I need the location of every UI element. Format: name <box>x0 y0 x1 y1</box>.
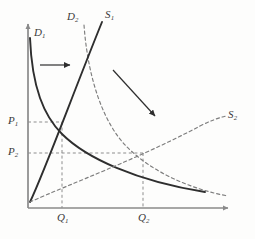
demand-curve-d1-label: D1 <box>34 27 45 38</box>
supply-demand-diagram: D1 D2 S1 S2 P1 P2 Q1 Q2 <box>0 0 255 239</box>
price-tick-p2-sub: 2 <box>15 151 18 158</box>
supply-curve-s1-label: S1 <box>105 9 114 20</box>
quantity-tick-q1-sub: 1 <box>65 217 68 224</box>
price-tick-p1-label: P1 <box>8 115 18 126</box>
supply-curve-s1 <box>30 22 102 202</box>
demand-curve-d2-label-text: D <box>67 10 75 22</box>
axis-group <box>28 24 228 208</box>
supply-curve-s2-label-text: S <box>228 108 234 120</box>
quantity-tick-q1-label: Q1 <box>57 212 68 223</box>
demand-curve-d1-label-text: D <box>34 26 42 38</box>
shift-arrows-group <box>40 65 155 116</box>
demand-curve-d2-label: D2 <box>67 11 78 22</box>
quantity-tick-q2-text: Q <box>138 211 146 223</box>
quantity-tick-q2-sub: 2 <box>146 217 149 224</box>
price-tick-p1-text: P <box>8 114 15 126</box>
demand-curve-d1-label-sub: 1 <box>42 32 45 39</box>
curves-group <box>30 22 228 202</box>
supply-shift-arrow <box>113 70 155 116</box>
demand-curve-d2 <box>84 25 228 196</box>
supply-curve-s1-label-sub: 1 <box>111 14 114 21</box>
demand-curve-d2-label-sub: 2 <box>75 16 78 23</box>
supply-curve-s2-label: S2 <box>228 109 237 120</box>
quantity-tick-q1-text: Q <box>57 211 65 223</box>
price-tick-p2-text: P <box>8 145 15 157</box>
demand-curve-d1 <box>30 38 205 192</box>
supply-curve-s1-label-text: S <box>105 8 111 20</box>
supply-curve-s2-label-sub: 2 <box>234 114 237 121</box>
price-tick-p1-sub: 1 <box>15 120 18 127</box>
quantity-tick-q2-label: Q2 <box>138 212 149 223</box>
price-tick-p2-label: P2 <box>8 146 18 157</box>
